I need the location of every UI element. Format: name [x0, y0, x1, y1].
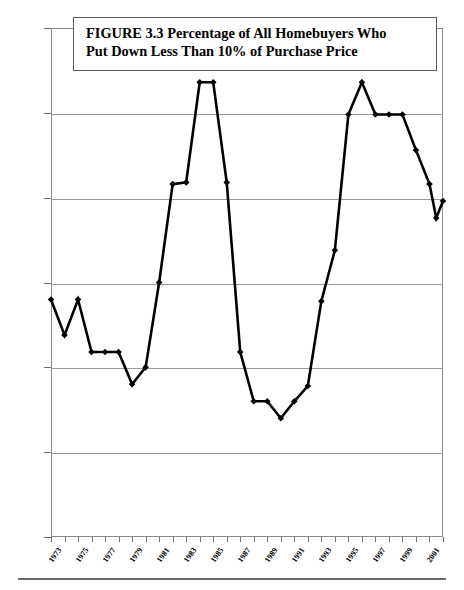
- x-tick-label-1985: 1985: [209, 546, 226, 564]
- x-tick-mark-1978: [119, 537, 120, 542]
- plot-area: [51, 28, 443, 537]
- x-tick-label-1993: 1993: [317, 546, 334, 564]
- footer-rule: [18, 578, 446, 580]
- x-tick-mark-2001: [429, 537, 430, 542]
- x-tick-mark-1996: [362, 537, 363, 542]
- x-tick-label-1987: 1987: [236, 546, 253, 564]
- x-tick-label-1983: 1983: [182, 546, 199, 564]
- x-tick-mark-1977: [105, 537, 106, 542]
- x-tick-mark-1993: [321, 537, 322, 542]
- x-tick-mark-1981: [159, 537, 160, 542]
- x-tick-label-1979: 1979: [128, 546, 145, 564]
- x-tick-mark-1975: [78, 537, 79, 542]
- x-tick-mark-1973: [51, 537, 52, 542]
- x-tick-mark-1995: [348, 537, 349, 542]
- x-tick-mark-1987: [240, 537, 241, 542]
- x-tick-label-2001: 2001: [425, 546, 442, 564]
- x-tick-mark-1983: [186, 537, 187, 542]
- x-tick-label-1999: 1999: [398, 546, 415, 564]
- figure-3-3: Percentage of Loans with at Least 90% Lo…: [0, 0, 464, 590]
- x-tick-mark-1990: [281, 537, 282, 542]
- x-tick-label-1995: 1995: [344, 546, 361, 564]
- x-tick-label-1977: 1977: [101, 546, 118, 564]
- x-tick-mark-1994: [335, 537, 336, 542]
- figure-title-line-2: Put Down Less Than 10% of Purchase Price: [86, 43, 426, 61]
- x-tick-label-1997: 1997: [371, 546, 388, 564]
- x-tick-mark-1988: [254, 537, 255, 542]
- x-tick-mark-1997: [375, 537, 376, 542]
- gridline-y-20: [52, 199, 442, 200]
- figure-title-box: FIGURE 3.3 Percentage of All Homebuyers …: [73, 17, 437, 71]
- x-tick-label-1991: 1991: [290, 546, 307, 564]
- x-tick-mark-1986: [227, 537, 228, 542]
- y-tick-mark-15: [44, 283, 51, 284]
- x-tick-mark-1999: [402, 537, 403, 542]
- x-tick-label-1989: 1989: [263, 546, 280, 564]
- y-tick-mark-25: [44, 113, 51, 114]
- x-tick-label-1975: 1975: [74, 546, 91, 564]
- x-tick-label-1973: 1973: [47, 546, 64, 564]
- x-tick-label-1981: 1981: [155, 546, 172, 564]
- x-tick-mark-1982: [173, 537, 174, 542]
- gridline-y-15: [52, 284, 442, 285]
- y-tick-mark-20: [44, 198, 51, 199]
- x-tick-mark-1992: [308, 537, 309, 542]
- x-tick-mark-1974: [65, 537, 66, 542]
- figure-title-line-1: FIGURE 3.3 Percentage of All Homebuyers …: [86, 25, 426, 43]
- x-tick-mark-1979: [132, 537, 133, 542]
- y-tick-mark-30: [44, 28, 51, 29]
- y-tick-mark-5: [44, 452, 51, 453]
- y-tick-mark-0: [44, 537, 51, 538]
- x-tick-mark-2002: [443, 537, 444, 542]
- gridline-y-25: [52, 114, 442, 115]
- x-tick-mark-1980: [146, 537, 147, 542]
- y-tick-mark-10: [44, 367, 51, 368]
- x-tick-mark-1976: [92, 537, 93, 542]
- x-tick-mark-1998: [389, 537, 390, 542]
- x-tick-mark-1991: [294, 537, 295, 542]
- gridline-y-10: [52, 368, 442, 369]
- x-tick-mark-1985: [213, 537, 214, 542]
- x-tick-mark-1984: [200, 537, 201, 542]
- x-tick-mark-2000: [416, 537, 417, 542]
- gridline-y-5: [52, 453, 442, 454]
- x-tick-mark-1989: [267, 537, 268, 542]
